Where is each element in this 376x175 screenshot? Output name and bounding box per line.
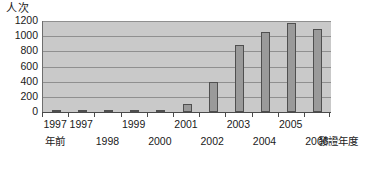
y-axis-title: 人次 xyxy=(6,2,29,14)
bar[interactable] xyxy=(235,45,244,112)
tick-slot xyxy=(173,113,199,117)
y-axis-tick-label: 400 xyxy=(0,76,38,87)
bar-slot xyxy=(43,21,69,112)
x-axis-tick-label: 1999 xyxy=(108,118,160,130)
x-axis-title: 發證年度 xyxy=(318,135,358,147)
bar-slot xyxy=(200,21,226,112)
tick-mark xyxy=(329,113,330,117)
x-axis-tick-label: 2005 xyxy=(265,118,317,130)
tick-mark xyxy=(304,113,305,117)
bar-slot xyxy=(305,21,331,112)
tick-mark xyxy=(121,113,122,117)
bar-slot xyxy=(279,21,305,112)
tick-mark xyxy=(94,113,95,117)
tick-slot xyxy=(42,113,68,117)
tick-mark xyxy=(68,113,69,117)
tick-slot xyxy=(252,113,278,117)
bars-layer xyxy=(43,21,331,112)
tick-slot xyxy=(147,113,173,117)
bar[interactable] xyxy=(313,29,322,112)
tick-mark xyxy=(173,113,174,117)
tick-slot xyxy=(121,113,147,117)
x-axis-tick-label: 2003 xyxy=(212,118,264,130)
x-axis-tick-label: 年前 xyxy=(29,135,81,147)
tick-slot xyxy=(68,113,94,117)
y-axis-tick-label: 0 xyxy=(0,106,38,117)
x-axis-tick-label: 2000 xyxy=(134,135,186,147)
bar-chart: 人次 120010008006004002000 1997年前199719981… xyxy=(0,0,376,175)
y-axis-tick-labels: 120010008006004002000 xyxy=(0,21,38,112)
tick-slot xyxy=(199,113,225,117)
tick-mark xyxy=(278,113,279,117)
x-axis-tick-label: 1997 xyxy=(55,118,107,130)
x-axis-tick-label: 1998 xyxy=(81,135,133,147)
y-axis-tick-label: 600 xyxy=(0,61,38,72)
plot-area xyxy=(42,21,331,112)
bar-slot xyxy=(95,21,121,112)
bar-slot xyxy=(253,21,279,112)
bar[interactable] xyxy=(183,104,192,112)
y-axis-tick-label: 1200 xyxy=(0,15,38,26)
bar[interactable] xyxy=(287,23,296,112)
bar-slot xyxy=(122,21,148,112)
y-axis-tick-label: 200 xyxy=(0,91,38,102)
y-axis-tick-label: 1000 xyxy=(0,30,38,41)
bar-slot xyxy=(148,21,174,112)
tick-slot xyxy=(304,113,330,117)
tick-mark xyxy=(42,113,43,117)
x-axis-tick-label: 2004 xyxy=(239,135,291,147)
tick-mark xyxy=(147,113,148,117)
bar[interactable] xyxy=(209,82,218,112)
tick-mark xyxy=(252,113,253,117)
tick-mark xyxy=(225,113,226,117)
x-axis-tick-label: 2002 xyxy=(186,135,238,147)
x-axis-tick-labels: 1997年前1997199819992000200120022003200420… xyxy=(42,118,330,158)
bar[interactable] xyxy=(261,32,270,112)
bar-slot xyxy=(69,21,95,112)
bar-slot xyxy=(226,21,252,112)
bar-slot xyxy=(174,21,200,112)
y-axis-tick-label: 800 xyxy=(0,45,38,56)
tick-slot xyxy=(278,113,304,117)
x-axis-ticks xyxy=(42,113,330,117)
tick-slot xyxy=(225,113,251,117)
tick-mark xyxy=(199,113,200,117)
x-axis-tick-label: 2001 xyxy=(160,118,212,130)
tick-slot xyxy=(94,113,120,117)
